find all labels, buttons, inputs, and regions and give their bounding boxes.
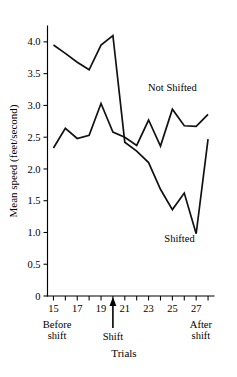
line-chart: 00.51.01.52.02.53.03.54.0 15171921232527… [0, 0, 237, 377]
y-tick-label: 4.0 [27, 36, 40, 47]
shift-arrow-head [110, 297, 117, 306]
annotation-before-shift: Before shift [43, 319, 72, 341]
y-tick-label: 0.5 [27, 259, 40, 270]
x-axis-title: Trials [111, 347, 136, 359]
x-tick-label: 17 [72, 303, 83, 314]
series-line-not-shifted [53, 104, 208, 148]
y-axis-tick-labels: 00.51.01.52.02.53.03.54.0 [27, 36, 40, 301]
data-series-group [53, 36, 208, 234]
y-tick-label: 2.5 [27, 132, 40, 143]
after-shift-line2: shift [192, 330, 211, 341]
x-tick-label: 21 [120, 303, 131, 314]
series-line-shifted [53, 36, 208, 234]
x-axis: 15171921232527 [48, 296, 215, 314]
chart-figure: 00.51.01.52.02.53.03.54.0 15171921232527… [0, 0, 237, 377]
before-shift-line2: shift [48, 330, 67, 341]
y-tick-label: 1.0 [27, 227, 40, 238]
y-axis-ticks [44, 42, 48, 296]
x-tick-label: 23 [143, 303, 154, 314]
x-axis-tick-labels: 15171921232527 [48, 303, 201, 314]
shift-label: Shift [103, 331, 124, 342]
y-tick-label: 3.5 [27, 68, 40, 79]
series-label-shifted: Shifted [164, 233, 195, 244]
series-labels: Not Shifted Shifted [148, 82, 197, 244]
y-axis: 00.51.01.52.02.53.03.54.0 [27, 26, 47, 302]
y-tick-label: 0 [35, 291, 40, 302]
y-axis-title: Mean speed (feet/second) [7, 104, 20, 217]
x-tick-label: 25 [167, 303, 178, 314]
y-tick-label: 2.0 [27, 164, 40, 175]
annotation-after-shift: After shift [190, 319, 213, 341]
x-tick-label: 27 [191, 303, 202, 314]
series-label-not-shifted: Not Shifted [148, 82, 197, 93]
after-shift-line1: After [190, 319, 213, 330]
x-tick-label: 15 [48, 303, 59, 314]
before-shift-line1: Before [43, 319, 72, 330]
y-tick-label: 1.5 [27, 195, 40, 206]
x-axis-ticks [53, 296, 208, 301]
x-tick-label: 19 [96, 303, 107, 314]
y-tick-label: 3.0 [27, 100, 40, 111]
